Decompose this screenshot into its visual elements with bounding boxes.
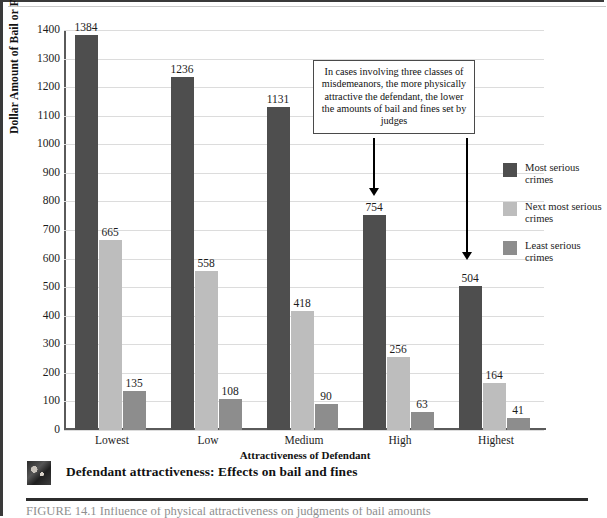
x-axis-category-labels: LowestLowMediumHighHighest [64, 434, 544, 450]
bar-value-label: 164 [472, 369, 516, 381]
bar-value-label: 63 [400, 398, 444, 410]
bar-value-label: 256 [376, 343, 420, 355]
bar[interactable] [123, 391, 146, 430]
legend-item[interactable]: Most serious crimes [503, 162, 603, 188]
y-axis-tick-label: 100 [24, 395, 60, 407]
bar[interactable] [195, 271, 218, 430]
bar-value-label: 1131 [256, 93, 300, 105]
x-axis-category-label: Highest [451, 434, 541, 446]
bar-value-label: 558 [184, 257, 228, 269]
bar[interactable] [171, 77, 194, 430]
gridline [64, 430, 544, 431]
x-axis-category-label: High [355, 434, 445, 446]
x-axis-category-label: Medium [259, 434, 349, 446]
bar-value-label: 418 [280, 297, 324, 309]
bar-value-label: 41 [496, 404, 540, 416]
bar-value-label: 90 [304, 390, 348, 402]
x-axis-title: Attractiveness of Defendant [3, 449, 607, 461]
y-axis-tick-label: 600 [24, 253, 60, 265]
y-axis-tick-label: 0 [24, 424, 60, 436]
x-axis-category-label: Lowest [67, 434, 157, 446]
legend-item-label: Next most serious crimes [525, 201, 603, 226]
bar-group: 1384665135 [75, 30, 146, 430]
caption-divider-rule [26, 498, 588, 501]
bar-value-label: 135 [112, 377, 156, 389]
arrow-shaft [466, 138, 468, 253]
callout-arrow-high [371, 138, 377, 196]
y-axis-tick-labels: 0100200300400500600700800900100011001200… [20, 30, 60, 430]
bar-value-label: 665 [88, 226, 132, 238]
bar[interactable] [411, 412, 434, 430]
y-axis-tick-label: 1400 [24, 24, 60, 36]
bar[interactable] [267, 107, 290, 430]
y-axis-tick-label: 400 [24, 310, 60, 322]
callout-arrow-highest [464, 138, 470, 260]
bar[interactable] [99, 240, 122, 430]
figure-footer-text: FIGURE 14.1 Influence of physical attrac… [26, 507, 431, 518]
y-axis-tick-label: 800 [24, 195, 60, 207]
arrow-head-icon [369, 188, 379, 196]
legend-item[interactable]: Next most serious crimes [503, 201, 603, 227]
bar-value-label: 1236 [160, 63, 204, 75]
legend-color-swatch [503, 163, 517, 177]
legend-item-label: Most serious crimes [525, 162, 603, 187]
bar[interactable] [291, 311, 314, 430]
x-axis-category-label: Low [163, 434, 253, 446]
legend-color-swatch [503, 241, 517, 255]
bar-value-label: 504 [448, 272, 492, 284]
figure-caption-row: Defendant attractiveness: Effects on bai… [27, 461, 587, 491]
bar-value-label: 108 [208, 385, 252, 397]
defendant-photo-thumbnail [27, 461, 51, 485]
y-axis-tick-label: 500 [24, 281, 60, 293]
callout-box: In cases involving three classes of misd… [313, 60, 475, 134]
bar-value-label: 1384 [64, 21, 108, 33]
bar[interactable] [219, 399, 242, 430]
chart-legend: Most serious crimesNext most serious cri… [503, 162, 603, 279]
figure-caption-text: Defendant attractiveness: Effects on bai… [66, 464, 358, 480]
y-axis-tick-label: 1000 [24, 138, 60, 150]
y-axis-tick-label: 1300 [24, 53, 60, 65]
y-axis-tick-label: 700 [24, 224, 60, 236]
y-axis-tick-label: 300 [24, 338, 60, 350]
y-axis-title: Dollar Amount of Bail or Fine Set by Jud… [8, 0, 20, 134]
y-axis-tick-label: 1100 [24, 110, 60, 122]
bar[interactable] [507, 418, 530, 430]
legend-color-swatch [503, 202, 517, 216]
bar[interactable] [387, 357, 410, 430]
y-axis-tick-label: 200 [24, 367, 60, 379]
bar-value-label: 754 [352, 201, 396, 213]
figure-footer-clipped: FIGURE 14.1 Influence of physical attrac… [26, 507, 588, 518]
bar[interactable] [459, 286, 482, 430]
legend-item-label: Least serious crimes [525, 240, 603, 265]
bar[interactable] [363, 215, 386, 430]
arrow-shaft [373, 138, 375, 189]
bar[interactable] [315, 404, 338, 430]
arrow-head-icon [462, 252, 472, 260]
y-axis-tick-label: 1200 [24, 81, 60, 93]
bar-group: 1236558108 [171, 30, 242, 430]
y-axis-tick-label: 900 [24, 167, 60, 179]
legend-item[interactable]: Least serious crimes [503, 240, 603, 266]
